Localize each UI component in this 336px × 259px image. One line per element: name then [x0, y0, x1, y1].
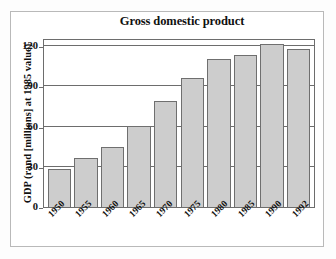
y-tick-label: 60	[8, 121, 38, 132]
bar-slot	[99, 40, 126, 207]
bar-series	[44, 40, 314, 207]
bar-slot	[46, 40, 73, 207]
bar-slot	[73, 40, 100, 207]
plot-area	[43, 39, 315, 208]
chart-page: Gross domestic product GDP (rand [millio…	[0, 0, 336, 259]
bar[interactable]	[127, 126, 150, 207]
y-tick-label: 90	[8, 80, 38, 91]
chart-title: Gross domestic product	[40, 14, 324, 29]
bar[interactable]	[154, 101, 177, 207]
bar-slot	[179, 40, 206, 207]
bar-slot	[206, 40, 233, 207]
bar[interactable]	[260, 44, 283, 207]
y-tick-label: 120	[8, 40, 38, 51]
y-tick-mark	[39, 208, 43, 209]
bar-slot	[259, 40, 286, 207]
bar-slot	[285, 40, 312, 207]
bar[interactable]	[207, 59, 230, 207]
bar-slot	[232, 40, 259, 207]
bar[interactable]	[287, 49, 310, 207]
y-tick-label: 0	[8, 201, 38, 212]
bar-slot	[152, 40, 179, 207]
y-tick-label: 30	[8, 161, 38, 172]
bar-slot	[126, 40, 153, 207]
bar[interactable]	[234, 55, 257, 207]
bar[interactable]	[181, 78, 204, 207]
